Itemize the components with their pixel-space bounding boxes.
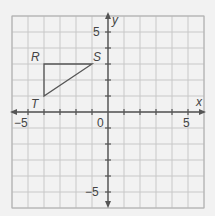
x-tick-label-neg5: −5 xyxy=(14,116,28,130)
axes xyxy=(10,12,206,208)
vertex-label-T: T xyxy=(31,97,40,111)
x-axis-label: x xyxy=(195,95,203,109)
vertex-label-R: R xyxy=(31,50,40,64)
origin-label: 0 xyxy=(97,116,104,130)
y-tick-label-neg5: −5 xyxy=(85,185,99,199)
x-tick-label-5: 5 xyxy=(183,116,190,130)
vertex-label-S: S xyxy=(93,50,101,64)
y-tick-label-5: 5 xyxy=(93,25,100,39)
coordinate-plane: x y 0 −5 5 5 −5 R S T xyxy=(0,0,215,216)
y-axis-label: y xyxy=(111,13,119,27)
